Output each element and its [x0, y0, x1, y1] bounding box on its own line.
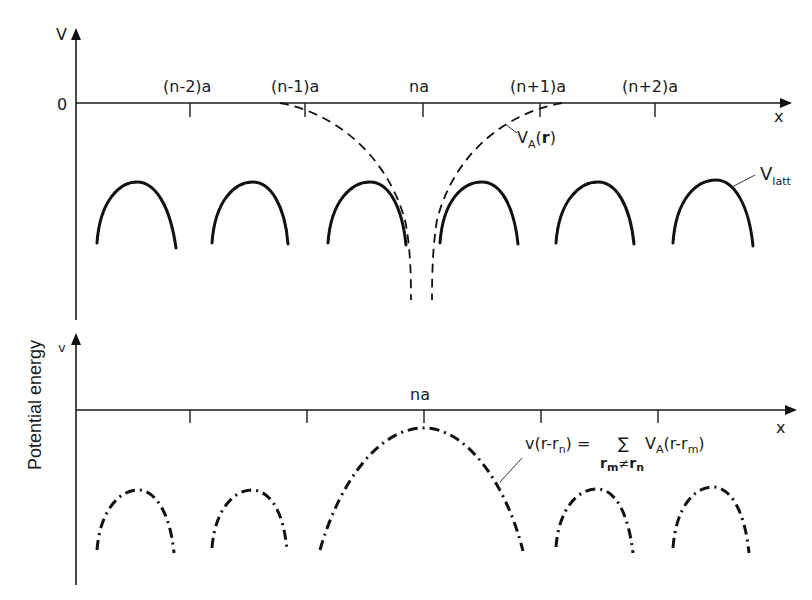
- upper-x-axis-symbol: x: [774, 107, 783, 126]
- sum-symbol: ∑: [618, 434, 629, 453]
- upper-panel: V 0 x (n-2)a (n-1)a na (n+1)a (n+2)a: [56, 25, 791, 320]
- tick-label-n-plus-2: (n+2)a: [622, 77, 678, 96]
- tick-label-n-plus-1: (n+1)a: [510, 77, 566, 96]
- upper-ticks: [190, 103, 655, 117]
- tick-label-n-minus-2: (n-2)a: [163, 77, 211, 96]
- tick-label-n: na: [409, 77, 429, 96]
- lattice-potential-leader: [732, 175, 755, 187]
- atomic-potential-leader: [505, 124, 517, 133]
- y-axis-label: Potential energy: [25, 340, 45, 470]
- lower-y-axis-symbol: v: [58, 340, 66, 355]
- lower-panel: v x na v(r-rn) = ∑ rm≠rn VA(r-r: [58, 335, 795, 585]
- lattice-potential-label: Vlatt: [760, 163, 791, 188]
- upper-y-axis-symbol: V: [56, 25, 67, 44]
- tick-label-n-minus-1: (n-1)a: [271, 77, 319, 96]
- lower-ticks: [190, 410, 658, 423]
- lattice-potential-curve: [97, 180, 753, 248]
- lower-tick-label-n: na: [410, 385, 430, 404]
- neighbor-sum-formula: v(r-rn) =: [525, 434, 590, 456]
- atomic-potential-sum-term: VA(r-rm): [645, 434, 705, 456]
- sum-index: rm≠rn: [600, 455, 644, 474]
- zero-label: 0: [57, 95, 67, 114]
- lower-x-axis-symbol: x: [776, 418, 785, 437]
- formula-leader: [500, 458, 522, 482]
- potential-energy-diagram: Potential energy V 0 x (n-2)a (n-1)a na …: [0, 0, 812, 600]
- atomic-potential-label: VA(r): [517, 128, 556, 151]
